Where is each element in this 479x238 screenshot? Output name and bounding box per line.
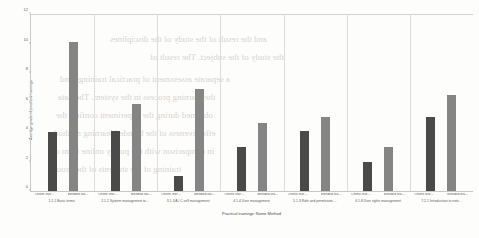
- x-axis-series-label: Online learn...: [35, 193, 56, 197]
- x-axis-series-label: blended lear...: [321, 193, 342, 197]
- x-axis-labels: Online learn...blended lear...1.1-1 Basi…: [30, 193, 473, 203]
- x-axis-series-label: blended lear...: [194, 193, 215, 197]
- x-axis-series-labels: Online learn...blended lear...: [410, 193, 473, 197]
- bar[interactable]: [111, 131, 120, 191]
- bar[interactable]: [363, 162, 372, 192]
- bar[interactable]: [447, 95, 456, 191]
- bar-group: [410, 14, 473, 191]
- bar[interactable]: [258, 123, 267, 191]
- x-axis-group: Online learn...blended lear...6.1-8 User…: [346, 193, 409, 203]
- bar[interactable]: [384, 147, 393, 191]
- bar[interactable]: [195, 89, 204, 191]
- x-axis-series-labels: Online learn...blended lear...: [346, 193, 409, 197]
- x-axis-group-label: 4.1-4 User management: [220, 199, 283, 203]
- bar[interactable]: [321, 117, 330, 191]
- x-axis-group: Online learn...blended lear...7.2-1 Intr…: [410, 193, 473, 203]
- x-axis-series-labels: Online learn...blended lear...: [220, 193, 283, 197]
- bar-group: [220, 14, 283, 191]
- bar[interactable]: [69, 42, 78, 191]
- bar[interactable]: [174, 176, 183, 191]
- x-axis-group-label: 1.1-1 Basic terms: [30, 199, 93, 203]
- x-axis-group-label: 3.1-3 A / C self management: [157, 199, 220, 203]
- bar[interactable]: [237, 147, 246, 191]
- bar-group: [94, 14, 157, 191]
- x-axis-title: Practical trainings: Name Method: [30, 211, 473, 216]
- x-axis-group: Online learn...blended lear...2.1-2 Syst…: [93, 193, 156, 203]
- x-axis-group: Online learn...blended lear...5.1-3 Role…: [283, 193, 346, 203]
- x-axis-series-label: blended lear...: [68, 193, 89, 197]
- bar-group: [31, 14, 94, 191]
- bar-chart: Average grade of practical trainings 024…: [0, 0, 479, 238]
- x-axis-group: Online learn...blended lear...4.1-4 User…: [220, 193, 283, 203]
- x-axis-series-label: Online learn...: [161, 193, 182, 197]
- x-axis-group-label: 2.1-2 System management to...: [93, 199, 156, 203]
- x-axis-series-labels: Online learn...blended lear...: [93, 193, 156, 197]
- bar-group: [347, 14, 410, 191]
- x-axis-series-labels: Online learn...blended lear...: [283, 193, 346, 197]
- bar[interactable]: [300, 131, 309, 191]
- bar[interactable]: [48, 132, 57, 191]
- x-axis-group-label: 5.1-3 Role and permission ...: [283, 199, 346, 203]
- x-axis-series-label: Online learn...: [288, 193, 309, 197]
- x-axis-group: Online learn...blended lear...1.1-1 Basi…: [30, 193, 93, 203]
- x-axis-series-label: Online learn...: [224, 193, 245, 197]
- bar-series-container: [31, 14, 473, 191]
- x-axis-series-labels: Online learn...blended lear...: [157, 193, 220, 197]
- bar[interactable]: [132, 104, 141, 191]
- y-axis-tick-label: 12: [24, 8, 31, 12]
- bar[interactable]: [426, 117, 435, 191]
- plot-area: 024681012: [30, 14, 473, 192]
- x-axis-series-labels: Online learn...blended lear...: [30, 193, 93, 197]
- x-axis-series-label: Online learn...: [414, 193, 435, 197]
- x-axis-group: Online learn...blended lear...3.1-3 A / …: [157, 193, 220, 203]
- x-axis-series-label: blended lear...: [447, 193, 468, 197]
- x-axis-series-label: blended lear...: [257, 193, 278, 197]
- x-axis-series-label: Online learn...: [351, 193, 372, 197]
- x-axis-series-label: blended lear...: [131, 193, 152, 197]
- chart-page: and the result of the study of the disci…: [0, 0, 479, 238]
- x-axis-group-label: 6.1-8 User rights management: [346, 199, 409, 203]
- x-axis-group-label: 7.2-1 Introduction to exte...: [410, 199, 473, 203]
- x-axis-series-label: blended lear...: [384, 193, 405, 197]
- bar-group: [284, 14, 347, 191]
- x-axis-series-label: Online learn...: [98, 193, 119, 197]
- bar-group: [157, 14, 220, 191]
- y-axis-tick-label: 10: [24, 38, 31, 42]
